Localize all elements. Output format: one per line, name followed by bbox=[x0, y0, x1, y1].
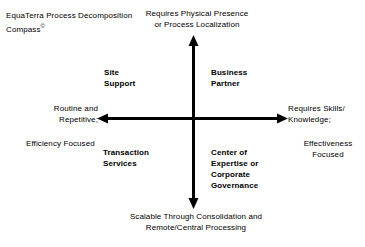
axis-label-right-primary: Requires Skills/ Knowledge; bbox=[288, 103, 365, 125]
quadrant-label-business-partner: Business Partner bbox=[211, 67, 291, 89]
arrowhead-top-icon bbox=[189, 35, 199, 46]
arrowhead-right-icon bbox=[277, 114, 288, 124]
axis-label-bottom: Scalable Through Consolidation and Remot… bbox=[106, 211, 286, 233]
axis-label-top: Requires Physical Presence or Process Lo… bbox=[127, 8, 267, 30]
compass-diagram: EquaTerra Process Decomposition Compass©… bbox=[0, 0, 365, 247]
quadrant-label-site-support: Site Support bbox=[104, 67, 174, 89]
axis-label-left-primary: Routine and Repetitive; bbox=[10, 103, 98, 125]
quadrant-label-transaction-services: Transaction Services bbox=[103, 147, 183, 169]
arrowhead-bottom-icon bbox=[189, 198, 199, 209]
arrowhead-left-icon bbox=[97, 114, 108, 124]
quadrant-label-center-of-expertise: Center of Expertise or Corporate Governa… bbox=[211, 147, 291, 191]
axis-label-right-secondary: Effectiveness Focused bbox=[292, 138, 364, 160]
